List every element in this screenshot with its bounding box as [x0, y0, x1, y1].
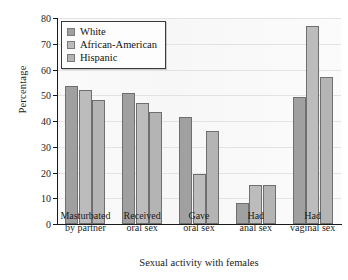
bar: [149, 112, 162, 224]
bar: [92, 100, 105, 224]
legend-swatch-icon-african-american: [67, 41, 75, 49]
x-category-label: Masturbatedby partner: [60, 210, 110, 233]
y-tick-label: 80: [41, 13, 51, 24]
bar: [136, 103, 149, 224]
x-category-label: Gaveoral sex: [183, 210, 214, 233]
bar: [320, 77, 333, 224]
bar: [65, 86, 78, 224]
bar: [293, 97, 306, 224]
legend-item-white: White: [67, 25, 157, 38]
legend-label-african-american: African-American: [80, 39, 157, 50]
legend-item-african-american: African-American: [67, 38, 157, 51]
gridline: [58, 18, 341, 19]
x-category-label: Hadvaginal sex: [290, 210, 335, 233]
bar: [306, 26, 319, 224]
x-axis-title: Sexual activity with females: [57, 257, 341, 268]
chart-legend: White African-American Hispanic: [61, 21, 166, 69]
x-category-label: Receivedoral sex: [124, 210, 161, 233]
legend-label-white: White: [80, 26, 106, 37]
y-tick-label: 70: [41, 38, 51, 49]
gridline: [58, 70, 341, 71]
y-tick-label: 20: [41, 167, 51, 178]
y-tick-label: 10: [41, 193, 51, 204]
y-tick-label: 0: [46, 219, 51, 230]
y-tick-label: 40: [41, 116, 51, 127]
bar: [79, 90, 92, 224]
x-category-label: Hadanal sex: [240, 210, 273, 233]
y-axis-title: Percentage: [17, 30, 28, 150]
legend-label-hispanic: Hispanic: [80, 52, 117, 63]
y-tick-label: 50: [41, 90, 51, 101]
legend-swatch-icon-white: [67, 28, 75, 36]
y-tick-label: 60: [41, 64, 51, 75]
bar: [179, 117, 192, 224]
y-tick-label: 30: [41, 141, 51, 152]
y-axis-line: [57, 18, 58, 225]
bar: [122, 93, 135, 224]
legend-item-hispanic: Hispanic: [67, 51, 157, 64]
chart-figure: Percentage 01020304050607080 Masturbated…: [0, 0, 348, 280]
legend-swatch-icon-hispanic: [67, 54, 75, 62]
